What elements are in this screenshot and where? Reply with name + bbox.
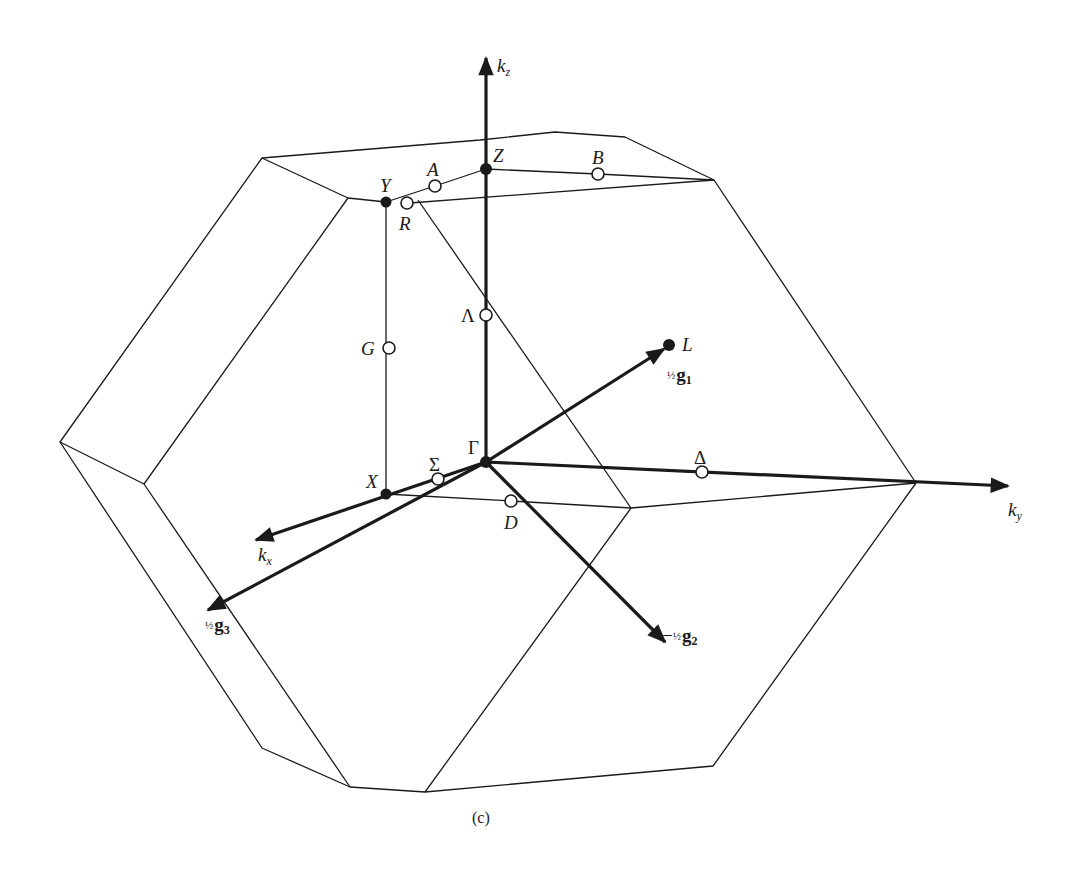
edge-bottom (350, 483, 916, 792)
point-r (401, 197, 413, 209)
point-g (383, 342, 395, 354)
label-l: L (682, 335, 693, 354)
point-d (505, 495, 517, 507)
label-ky: ky (1008, 500, 1022, 522)
point-x (381, 489, 392, 500)
label-kx: kx (258, 545, 272, 567)
label-delta: Δ (694, 448, 706, 467)
label-y: Y (380, 176, 391, 195)
label-b: B (592, 148, 604, 167)
edge-top-left (262, 158, 386, 202)
edge-left-lower-inner (144, 484, 350, 787)
edge-left-outer (60, 158, 262, 484)
label-a: A (427, 160, 439, 179)
point-gamma (480, 456, 492, 468)
label-kz: kz (497, 56, 510, 78)
label-minus-half-g2: −½g2 (662, 626, 697, 647)
vector-half-g1 (486, 349, 664, 462)
filled-points (381, 163, 676, 500)
point-z (480, 163, 492, 175)
edge-front-lower (386, 483, 916, 508)
edge-inner-diagonal (418, 200, 631, 508)
edge-right-upper (714, 180, 916, 483)
label-gamma: Γ (468, 438, 479, 457)
label-sigma: Σ (429, 455, 440, 474)
edge-left-inner (144, 198, 348, 484)
point-lambda (480, 309, 492, 321)
edge-front-to-bottom (425, 508, 631, 792)
label-x: X (366, 472, 378, 491)
vector-minus-half-g2 (486, 462, 665, 642)
point-a (429, 180, 441, 192)
point-b (592, 168, 604, 180)
vector-half-g3 (208, 462, 486, 610)
label-lambda: Λ (461, 306, 475, 325)
label-d: D (504, 513, 518, 532)
edge-top-front (410, 180, 714, 203)
label-half-g3: ½g3 (205, 615, 230, 636)
point-l (663, 339, 675, 351)
label-half-g1: ½g1 (667, 365, 692, 386)
label-g: G (361, 339, 375, 358)
point-y (381, 197, 392, 208)
label-r: R (399, 214, 411, 233)
figure-caption: (c) (472, 810, 490, 826)
axes (208, 58, 1008, 642)
axis-ky (486, 462, 1008, 486)
brillouin-zone-figure: kz ky kx ½g1 −½g2 ½g3 Γ Z Y X L A B R Λ … (0, 0, 1087, 872)
label-z: Z (493, 146, 504, 165)
diagram-canvas (0, 0, 1087, 872)
